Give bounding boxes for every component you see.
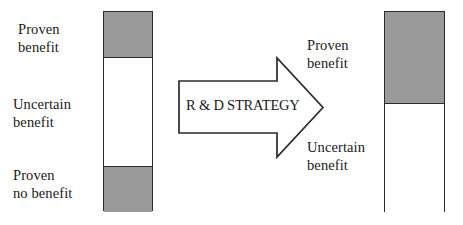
- left-bar-segment-uncertain-benefit: [104, 58, 152, 166]
- rd-strategy-arrow-label: R & D STRATEGY: [186, 97, 298, 114]
- left-bar-segment-proven-no-benefit: [104, 166, 152, 212]
- after-rd-strategy-bar: [384, 11, 445, 212]
- left-bar-segment-proven-benefit: [104, 12, 152, 58]
- right-bar-segment-proven-benefit: [385, 12, 444, 104]
- label-right-proven-benefit: Proven benefit: [307, 36, 349, 72]
- diagram-canvas: Proven benefit Uncertain benefit Proven …: [0, 0, 463, 225]
- label-left-proven-no-benefit: Proven no benefit: [13, 166, 72, 202]
- right-bar-segment-uncertain-benefit: [385, 104, 444, 213]
- label-left-proven-benefit: Proven benefit: [18, 20, 60, 56]
- label-left-uncertain-benefit: Uncertain benefit: [13, 95, 71, 131]
- label-right-uncertain-benefit: Uncertain benefit: [307, 138, 365, 174]
- before-rd-strategy-bar: [103, 11, 153, 211]
